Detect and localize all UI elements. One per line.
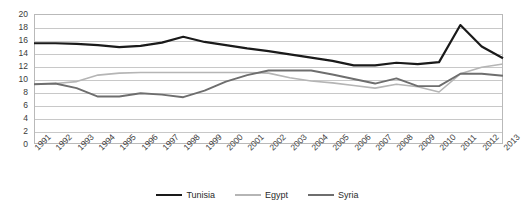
y-axis-tick-label: 4 — [23, 114, 28, 123]
legend-label: Egypt — [265, 191, 288, 200]
series-line-egypt — [34, 64, 503, 92]
y-axis-tick-label: 2 — [23, 127, 28, 136]
y-axis-tick-label: 14 — [19, 49, 28, 58]
y-axis-tick-label: 18 — [19, 23, 28, 32]
x-axis-tick-label: 2013 — [502, 133, 522, 153]
series-line-tunisia — [34, 25, 503, 65]
legend-item-tunisia[interactable]: Tunisia — [156, 191, 215, 200]
y-axis-tick-label: 6 — [23, 101, 28, 110]
chart-legend: TunisiaEgyptSyria — [0, 186, 515, 204]
y-axis-tick-label: 16 — [19, 36, 28, 45]
legend-swatch-syria — [308, 194, 334, 196]
legend-item-egypt[interactable]: Egypt — [235, 191, 288, 200]
series-layer — [34, 14, 503, 144]
legend-label: Tunisia — [186, 191, 215, 200]
y-axis-tick-label: 12 — [19, 62, 28, 71]
y-axis-tick-label: 8 — [23, 88, 28, 97]
y-axis-tick-label: 20 — [19, 10, 28, 19]
y-axis-tick-label: 0 — [23, 140, 28, 149]
y-axis-tick-label: 10 — [19, 75, 28, 84]
legend-label: Syria — [338, 191, 359, 200]
legend-swatch-tunisia — [156, 194, 182, 196]
y-axis: 20181614121086420 — [0, 0, 32, 160]
legend-swatch-egypt — [235, 194, 261, 196]
legend-item-syria[interactable]: Syria — [308, 191, 359, 200]
